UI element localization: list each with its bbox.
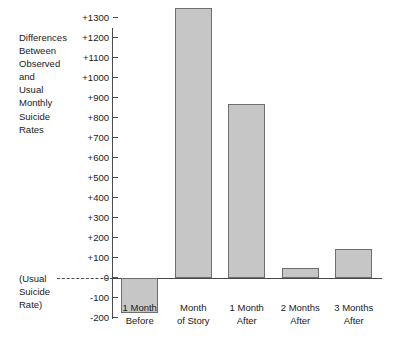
- y-axis-tick-mark: [113, 297, 118, 298]
- y-axis-line: [112, 28, 113, 319]
- y-axis-tick-label: +800: [69, 113, 109, 123]
- y-axis-tick-label: +900: [69, 93, 109, 103]
- y-axis-tick-mark: [113, 77, 118, 78]
- y-axis-tick-label: +500: [69, 173, 109, 183]
- y-axis-tick-label: +600: [69, 153, 109, 163]
- x-axis-category-label: 2 Months After: [270, 301, 332, 327]
- y-axis-tick-label: -100: [69, 293, 109, 303]
- y-axis-tick-label: +100: [69, 253, 109, 263]
- y-axis-tick-mark: [113, 217, 118, 218]
- suicide-rate-bar-chart: Differences Between Observed and Usual M…: [0, 0, 402, 353]
- y-axis-tick-mark: [113, 117, 118, 118]
- y-axis-tick-label: +700: [69, 133, 109, 143]
- y-axis-tick-label: +200: [69, 233, 109, 243]
- y-axis-tick-mark: [113, 277, 118, 278]
- x-axis-category-label: Month of Story: [163, 301, 225, 327]
- bar: [282, 268, 319, 278]
- y-axis-tick-label: +400: [69, 193, 109, 203]
- y-axis-tick-mark: [113, 237, 118, 238]
- bar: [228, 104, 265, 278]
- y-axis-tick-mark: [113, 17, 118, 18]
- y-axis-tick-label: +1200: [69, 33, 109, 43]
- y-axis-tick-mark: [113, 177, 118, 178]
- bar: [175, 8, 212, 278]
- y-axis-tick-label: -200: [69, 313, 109, 323]
- y-axis-tick-label: +1000: [69, 73, 109, 83]
- x-axis-category-label: 1 Month Before: [109, 301, 171, 327]
- y-axis-tick-label: +300: [69, 213, 109, 223]
- y-axis-tick-label: +1300: [69, 13, 109, 23]
- y-axis-tick-label: 0: [69, 273, 109, 283]
- x-axis-category-label: 1 Month After: [216, 301, 278, 327]
- bar: [335, 249, 372, 278]
- y-axis-tick-mark: [113, 197, 118, 198]
- y-axis-tick-label: +1100: [69, 53, 109, 63]
- x-axis-category-label: 3 Months After: [323, 301, 385, 327]
- plot-area: +1300+1200+1100+1000+900+800+700+600+500…: [0, 0, 402, 353]
- y-axis-tick-mark: [113, 257, 118, 258]
- y-axis-tick-mark: [113, 57, 118, 58]
- y-axis-tick-mark: [113, 157, 118, 158]
- y-axis-tick-mark: [113, 137, 118, 138]
- y-axis-tick-mark: [113, 97, 118, 98]
- y-axis-tick-mark: [113, 37, 118, 38]
